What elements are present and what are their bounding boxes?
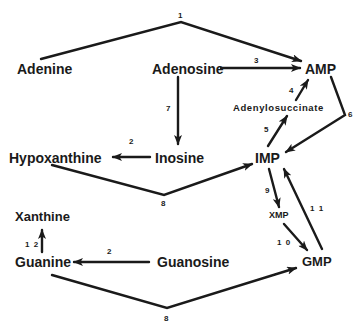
node-guanine: Guanine bbox=[15, 254, 71, 270]
edge-amp-to-imp bbox=[286, 77, 345, 152]
edge-label-8-guanine: 8 bbox=[164, 314, 169, 323]
edge-label-2-guanosine: 2 bbox=[107, 247, 112, 256]
node-hypoxanthine: Hypoxanthine bbox=[9, 150, 102, 166]
edge-guanine-to-gmp bbox=[52, 268, 296, 308]
node-amp: AMP bbox=[305, 61, 336, 77]
node-guanosine: Guanosine bbox=[157, 254, 230, 270]
edge-label-4: 4 bbox=[289, 86, 294, 95]
edge-label-1: 1 bbox=[178, 11, 183, 20]
node-gmp: GMP bbox=[302, 254, 332, 269]
edge-label-9: 9 bbox=[265, 186, 270, 195]
node-inosine: Inosine bbox=[155, 150, 204, 166]
edge-label-8-hypoxanthine: 8 bbox=[161, 199, 166, 208]
edge-hypoxanthine-to-imp bbox=[52, 164, 252, 195]
purine-pathway-diagram: Adenine Adenosine AMP Adenylosuccinate H… bbox=[0, 0, 359, 331]
node-adenosine: Adenosine bbox=[152, 61, 224, 77]
node-adenylosuccinate: Adenylosuccinate bbox=[233, 102, 324, 113]
node-imp: IMP bbox=[255, 150, 280, 166]
edge-imp-to-adenylosuccinate bbox=[268, 116, 287, 146]
edge-label-3: 3 bbox=[254, 56, 259, 65]
edge-label-2-inosine: 2 bbox=[129, 137, 134, 146]
edge-label-5: 5 bbox=[264, 125, 269, 134]
node-adenine: Adenine bbox=[17, 61, 72, 77]
edge-label-12: 1 2 bbox=[25, 240, 39, 249]
node-xanthine: Xanthine bbox=[15, 209, 70, 224]
edge-label-6: 6 bbox=[348, 110, 353, 119]
edge-imp-to-xmp bbox=[269, 169, 279, 207]
edge-adenine-to-amp bbox=[41, 22, 301, 61]
node-xmp: XMP bbox=[269, 210, 289, 220]
edge-adenylosuccinate-to-amp bbox=[296, 80, 308, 100]
edge-label-11: 1 1 bbox=[310, 204, 324, 213]
edge-label-10: 1 0 bbox=[277, 238, 291, 247]
edge-label-7: 7 bbox=[166, 104, 171, 113]
